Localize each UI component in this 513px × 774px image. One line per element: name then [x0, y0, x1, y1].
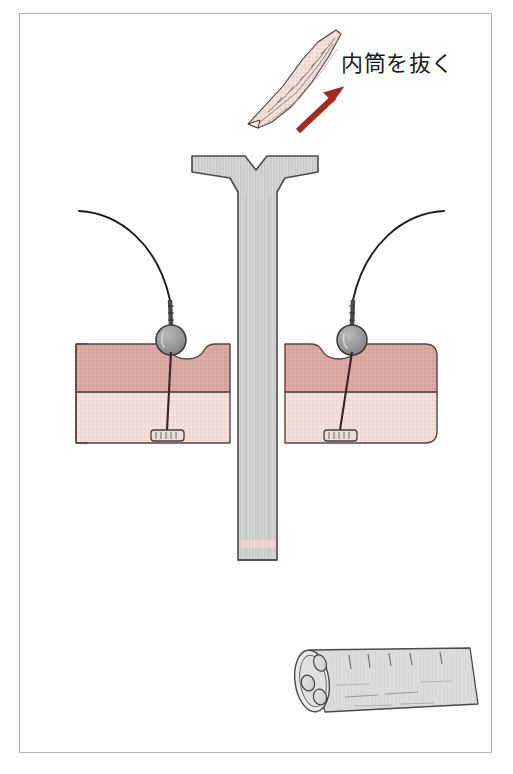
obturator-body [248, 30, 341, 128]
surgical-illustration [0, 0, 513, 774]
tissue-upper-layer-left [76, 344, 230, 392]
t-bar-anchor-right [324, 430, 357, 441]
anchor-bead-right [337, 325, 367, 355]
pull-inner-tube-label: 内筒を抜く [341, 50, 454, 78]
triple-lumen-cannula-group [291, 648, 478, 714]
cannula-distal-tint [240, 540, 275, 548]
suture-thread-left [79, 211, 170, 300]
obturator-stylet-group [248, 30, 341, 128]
cannula-barrel [309, 648, 478, 712]
t-bar-anchor-left [151, 430, 184, 441]
suture-thread-right [353, 211, 444, 300]
arrow-shaft [298, 97, 334, 131]
pull-direction-arrow [298, 88, 342, 131]
figure-page: 内筒を抜く [0, 0, 513, 774]
tissue-lower-layer-right [285, 392, 437, 443]
anchor-bead-left [156, 325, 186, 355]
tissue-block-left [76, 344, 230, 443]
tissue-block-right [285, 344, 437, 443]
